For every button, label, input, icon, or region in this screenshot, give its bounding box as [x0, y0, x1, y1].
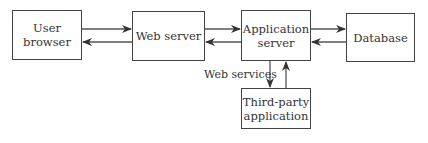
node-label: application: [243, 109, 309, 123]
architecture-diagram: Userbrowser Web server Applicationserver…: [0, 0, 428, 143]
node-web-server: Web server: [132, 11, 205, 61]
node-label: User: [23, 21, 71, 35]
node-label: Web server: [136, 29, 202, 43]
node-third-party-application: Third-partyapplication: [241, 88, 311, 129]
node-user-browser: Userbrowser: [12, 10, 82, 60]
node-application-server: Applicationserver: [241, 10, 311, 61]
node-label: Application: [243, 22, 309, 36]
node-database: Database: [346, 13, 415, 62]
node-label: Third-party: [243, 95, 309, 109]
node-label: browser: [23, 35, 71, 49]
edge-label-web-services: Web services: [204, 68, 277, 81]
node-label: Database: [353, 31, 407, 45]
node-label: server: [243, 36, 309, 50]
